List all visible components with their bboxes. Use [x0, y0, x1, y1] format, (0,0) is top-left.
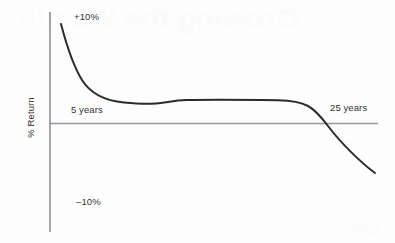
y-axis-title: % Return [25, 82, 36, 154]
line-chart-plot [0, 0, 395, 243]
y-axis-top-label: +10% [74, 11, 99, 22]
annotation-25-years: 25 years [330, 102, 367, 113]
chart-figure: Growing the Wealth 1901 +10% –10% 5 year… [0, 0, 395, 243]
y-axis-bottom-label: –10% [76, 196, 101, 207]
annotation-5-years: 5 years [71, 104, 103, 115]
return-curve-path [61, 24, 375, 173]
